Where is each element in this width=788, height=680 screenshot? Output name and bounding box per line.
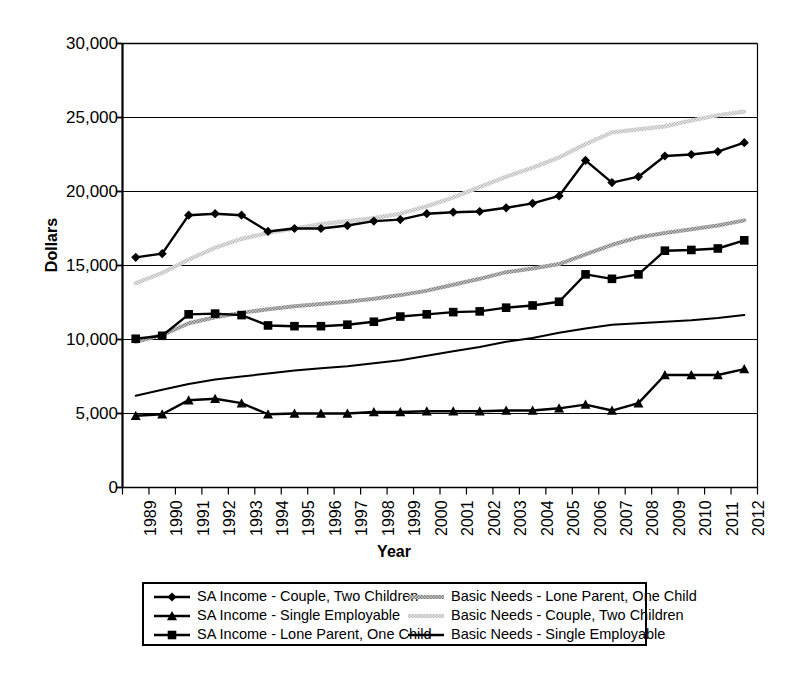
legend-item[interactable]: Basic Needs - Single Employable <box>406 625 646 644</box>
legend-column-left: SA Income - Couple, Two ChildrenSA Incom… <box>152 587 412 644</box>
legend-item-label: Basic Needs - Couple, Two Children <box>451 608 684 623</box>
legend-line-icon <box>152 589 192 605</box>
x-axis-tick-label: 1990 <box>168 500 186 536</box>
x-axis-tick-label: 1991 <box>195 500 213 536</box>
x-axis-tick-label: 1993 <box>248 500 266 536</box>
legend-item-label: Basic Needs - Single Employable <box>451 627 665 642</box>
x-axis-tick-labels: 1989199019911992199319941995199619971998… <box>0 0 788 680</box>
x-axis-tick-label: 2010 <box>697 500 715 536</box>
chart-container: 30,00025,00020,00015,00010,0005,0000 Dol… <box>0 0 788 680</box>
legend-line-icon <box>406 627 446 643</box>
x-axis-tick-label: 2011 <box>724 501 742 535</box>
legend-swatch-icon <box>152 627 192 643</box>
legend-item[interactable]: SA Income - Lone Parent, One Child <box>152 625 412 644</box>
legend-line-icon <box>152 608 192 624</box>
x-axis-tick-label: 1998 <box>380 500 398 536</box>
chart-legend: SA Income - Couple, Two ChildrenSA Incom… <box>142 582 647 646</box>
x-axis-title: Year <box>0 543 788 561</box>
x-axis-tick-label: 2003 <box>512 500 530 536</box>
x-axis-tick-label: 2008 <box>644 500 662 536</box>
x-axis-tick-label: 2012 <box>750 500 768 536</box>
x-axis-tick-label: 1995 <box>300 500 318 536</box>
x-axis-tick-label: 1989 <box>142 500 160 536</box>
legend-item-label: SA Income - Lone Parent, One Child <box>197 627 432 642</box>
x-axis-tick-label: 2002 <box>486 500 504 536</box>
legend-item-label: Basic Needs - Lone Parent, One Child <box>451 589 697 604</box>
x-axis-tick-label: 2006 <box>592 500 610 536</box>
legend-item-label: SA Income - Single Employable <box>197 608 400 623</box>
legend-column-right: Basic Needs - Lone Parent, One ChildBasi… <box>406 587 646 644</box>
legend-item[interactable]: SA Income - Couple, Two Children <box>152 587 412 606</box>
legend-item[interactable]: SA Income - Single Employable <box>152 606 412 625</box>
x-axis-tick-label: 1997 <box>353 500 371 536</box>
legend-swatch-icon <box>152 589 192 605</box>
x-axis-tick-label: 2004 <box>539 500 557 536</box>
x-axis-tick-label: 1999 <box>406 500 424 536</box>
x-axis-tick-label: 2007 <box>618 500 636 536</box>
legend-line-icon <box>152 627 192 643</box>
x-axis-tick-label: 2005 <box>565 500 583 536</box>
legend-line-icon <box>406 589 446 605</box>
legend-swatch-icon <box>406 589 446 605</box>
legend-swatch-icon <box>406 608 446 624</box>
legend-item-label: SA Income - Couple, Two Children <box>197 589 418 604</box>
legend-swatch-icon <box>406 627 446 643</box>
legend-swatch-icon <box>152 608 192 624</box>
legend-item[interactable]: Basic Needs - Couple, Two Children <box>406 606 646 625</box>
legend-line-icon <box>406 608 446 624</box>
x-axis-tick-label: 2000 <box>433 500 451 536</box>
x-axis-tick-label: 2009 <box>671 500 689 536</box>
x-axis-tick-label: 2001 <box>459 500 477 536</box>
legend-item[interactable]: Basic Needs - Lone Parent, One Child <box>406 587 646 606</box>
x-axis-tick-label: 1996 <box>327 500 345 536</box>
x-axis-tick-label: 1994 <box>274 500 292 536</box>
x-axis-tick-label: 1992 <box>221 500 239 536</box>
